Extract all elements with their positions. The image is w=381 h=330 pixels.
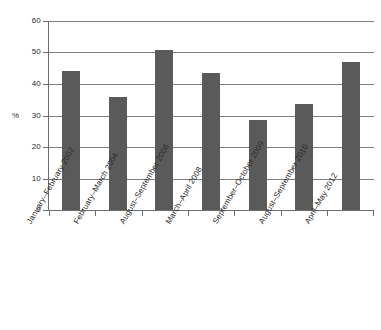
y-tick-label-50: 50	[32, 48, 41, 56]
y-tick-label-40-wrap: 40	[0, 80, 41, 88]
y-tick-label-60-wrap: 60	[0, 17, 41, 25]
y-tick-label-40: 40	[32, 80, 41, 88]
y-tick-mark-20	[43, 147, 49, 148]
y-tick-label-30: 30	[32, 112, 41, 120]
x-tick-mark-4	[234, 211, 235, 216]
x-tick-mark-2	[142, 211, 143, 216]
y-tick-label-10: 10	[32, 175, 41, 183]
y-tick-label-10-wrap: 10	[0, 175, 41, 183]
y-tick-mark-50	[43, 52, 49, 53]
y-tick-label-30-wrap: 30	[0, 112, 41, 120]
gridline-50	[48, 52, 374, 53]
bar-march-april-2008	[202, 73, 220, 210]
gridline-60	[48, 21, 374, 22]
x-tick-mark-6	[327, 211, 328, 216]
x-tick-mark-3	[188, 211, 189, 216]
y-tick-label-20: 20	[32, 143, 41, 151]
y-tick-mark-60	[43, 21, 49, 22]
bar-chart: 60 50 40 30 20 10 0 % January–February 2…	[0, 0, 381, 330]
x-axis-line	[48, 210, 374, 211]
y-axis-title: %	[12, 112, 19, 120]
y-tick-label-60: 60	[32, 17, 41, 25]
bar-january-february-2002	[62, 71, 80, 210]
y-tick-mark-30	[43, 116, 49, 117]
y-tick-label-20-wrap: 20	[0, 143, 41, 151]
x-tick-mark-5	[281, 211, 282, 216]
x-tick-mark-7	[373, 211, 374, 216]
x-tick-mark-1	[95, 211, 96, 216]
bar-april-may-2012	[342, 62, 360, 210]
bar-august-september-2006	[155, 50, 173, 210]
x-tick-mark-0	[49, 211, 50, 216]
y-tick-mark-40	[43, 84, 49, 85]
y-tick-label-50-wrap: 50	[0, 48, 41, 56]
